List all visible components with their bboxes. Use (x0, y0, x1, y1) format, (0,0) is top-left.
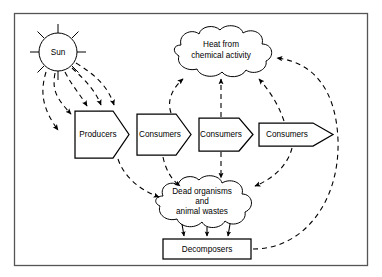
heat-cloud-line-2: chemical activity (191, 51, 252, 60)
diagram-canvas: Sun Heat from chemical activity Dead org… (0, 0, 382, 277)
consumers-3-label: Consumers (266, 130, 308, 139)
energy-flow-diagram: Sun Heat from chemical activity Dead org… (0, 0, 382, 277)
sun-label: Sun (51, 48, 66, 57)
sun-node: Sun (30, 24, 86, 80)
consumers-1-label: Consumers (139, 130, 181, 139)
heat-cloud-line-1: Heat from (203, 40, 239, 49)
decomposers-node: Decomposers (163, 239, 251, 259)
decomposers-label: Decomposers (182, 245, 233, 254)
consumers-2-label: Consumers (200, 130, 242, 139)
dead-cloud-line-1: Dead organisms (172, 187, 232, 196)
heat-cloud-node: Heat from chemical activity (174, 26, 271, 77)
producers-label: Producers (79, 130, 116, 139)
dead-cloud-line-3: animal wastes (176, 207, 228, 216)
dead-organisms-cloud-node: Dead organisms and animal wastes (156, 176, 252, 228)
dead-cloud-line-2: and (195, 197, 209, 206)
